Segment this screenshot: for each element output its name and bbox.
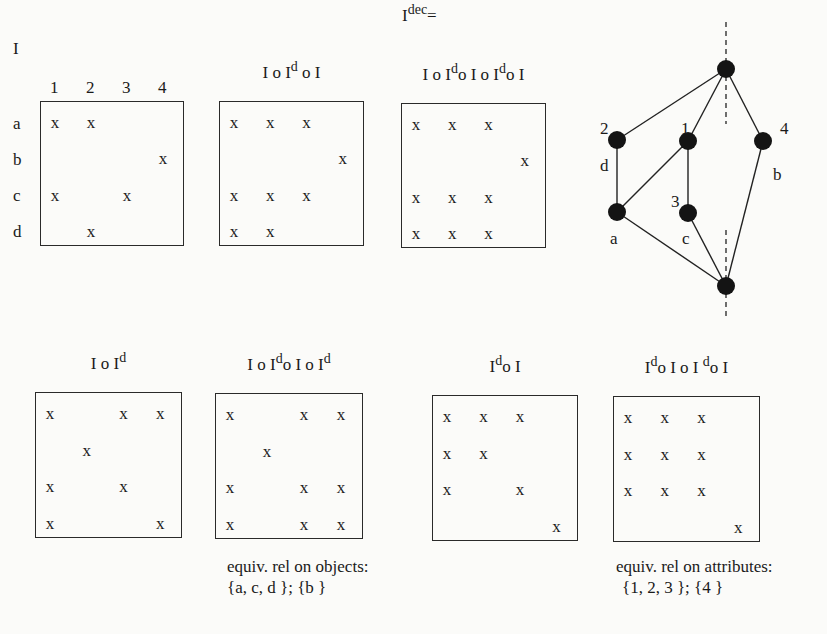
lattice-edge: [726, 69, 763, 141]
lattice-label: c: [682, 230, 690, 247]
lattice-label: b: [773, 166, 782, 183]
lattice-node-c: [679, 204, 697, 222]
attributes-caption-classes: {1, 2, 3 }; {4 }: [616, 577, 773, 598]
objects-caption-title: equiv. rel on objects:: [227, 556, 368, 577]
objects-equivalence-caption: equiv. rel on objects: {a, c, d }; {b }: [227, 556, 368, 598]
lattice-node-top: [717, 60, 735, 78]
lattice-edge: [617, 69, 726, 140]
lattice-label: 2: [600, 120, 609, 137]
concept-lattice-diagram: [0, 0, 827, 634]
objects-caption-classes: {a, c, d }; {b }: [227, 577, 368, 598]
lattice-edge: [617, 212, 726, 286]
lattice-label: 1: [681, 120, 690, 137]
lattice-label: 3: [671, 193, 680, 210]
lattice-edge: [688, 213, 726, 286]
lattice-label: 4: [780, 120, 789, 137]
lattice-label: d: [600, 157, 609, 174]
lattice-node-a: [608, 203, 626, 221]
attributes-caption-title: equiv. rel on attributes:: [616, 556, 773, 577]
lattice-label: a: [610, 230, 618, 247]
lattice-edge: [688, 69, 726, 141]
lattice-edge: [726, 141, 763, 286]
lattice-node-n4: [754, 132, 772, 150]
lattice-node-n2: [608, 131, 626, 149]
attributes-equivalence-caption: equiv. rel on attributes: {1, 2, 3 }; {4…: [616, 556, 773, 598]
lattice-node-bottom: [717, 277, 735, 295]
